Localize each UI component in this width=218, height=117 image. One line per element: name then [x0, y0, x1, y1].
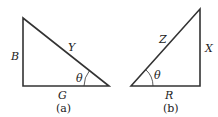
triangle-a: B Y θ G (a): [10, 18, 109, 115]
triangle-a-label-b: B: [10, 50, 19, 63]
triangle-b-label-theta: θ: [154, 69, 161, 82]
triangle-a-angle-arc: [84, 71, 90, 86]
triangle-b-caption: (b): [163, 102, 179, 115]
triangle-b-label-x: X: [204, 42, 214, 55]
triangle-a-label-y: Y: [68, 41, 77, 54]
triangle-b-angle-arc: [146, 70, 153, 86]
triangle-a-label-theta: θ: [76, 72, 83, 85]
triangle-b: Z X θ R (b): [131, 9, 214, 115]
triangle-b-label-z: Z: [158, 33, 167, 46]
triangle-a-caption: (a): [56, 102, 71, 115]
triangle-b-label-r: R: [164, 89, 173, 102]
triangle-a-label-g: G: [58, 89, 67, 102]
diagram-canvas: B Y θ G (a) Z X θ R (b): [0, 0, 218, 117]
triangle-a-outline: [23, 18, 109, 86]
triangle-b-outline: [131, 9, 200, 86]
